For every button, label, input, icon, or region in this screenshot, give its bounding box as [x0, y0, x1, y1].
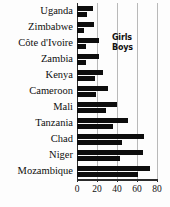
category-label: Côte d'Ivoire	[18, 37, 73, 48]
bar-chart: UgandaZimbabweCôte d'IvoireZambiaKenyaCa…	[0, 0, 170, 207]
bar-boys	[77, 12, 87, 17]
bar-group	[77, 147, 157, 163]
bar-girls	[77, 6, 93, 11]
legend-entry-boys: Boys	[112, 43, 133, 53]
bar-boys	[77, 28, 84, 33]
tick-label: 60	[126, 184, 148, 194]
category-label: Cameroon	[29, 85, 73, 96]
tick-mark	[117, 179, 118, 182]
tick-mark	[97, 179, 98, 182]
category-label: Chad	[51, 133, 73, 144]
category-label: Zambia	[41, 53, 73, 64]
bar-group	[77, 131, 157, 147]
bar-boys	[77, 92, 96, 97]
category-label: Mozambique	[18, 165, 73, 176]
category-label: Mali	[53, 101, 73, 112]
category-label: Uganda	[40, 5, 73, 16]
bar-group	[77, 115, 157, 131]
category-axis-labels: UgandaZimbabweCôte d'IvoireZambiaKenyaCa…	[0, 3, 75, 179]
tick-mark	[157, 179, 158, 182]
bar-group	[77, 3, 157, 19]
bar-girls	[77, 134, 144, 139]
bar-boys	[77, 76, 95, 81]
bar-boys	[77, 60, 86, 65]
bar-group	[77, 99, 157, 115]
bar-boys	[77, 140, 122, 145]
bar-girls	[77, 22, 94, 27]
bar-girls	[77, 102, 117, 107]
bar-boys	[77, 44, 86, 49]
tick-mark	[137, 179, 138, 182]
bar-boys	[77, 172, 138, 177]
bar-girls	[77, 38, 99, 43]
bar-boys	[77, 124, 113, 129]
bar-girls	[77, 150, 143, 155]
bar-boys	[77, 156, 120, 161]
chart-legend: Girls Boys	[112, 33, 133, 53]
plot-area	[77, 3, 157, 179]
bar-girls	[77, 54, 99, 59]
bar-girls	[77, 166, 150, 171]
category-label: Kenya	[46, 69, 73, 80]
bar-group	[77, 67, 157, 83]
gridline	[157, 3, 158, 179]
category-label: Zimbabwe	[28, 21, 73, 32]
bar-group	[77, 163, 157, 179]
tick-label: 80	[146, 184, 168, 194]
tick-label: 40	[106, 184, 128, 194]
bar-group	[77, 51, 157, 67]
category-label: Niger	[49, 149, 73, 160]
category-label: Tanzania	[35, 117, 73, 128]
bar-girls	[77, 86, 108, 91]
bar-girls	[77, 70, 103, 75]
tick-label: 20	[86, 184, 108, 194]
legend-entry-girls: Girls	[112, 33, 133, 43]
tick-label: 0	[66, 184, 88, 194]
bar-group	[77, 83, 157, 99]
tick-mark	[77, 179, 78, 182]
bar-boys	[77, 108, 106, 113]
bar-girls	[77, 118, 128, 123]
